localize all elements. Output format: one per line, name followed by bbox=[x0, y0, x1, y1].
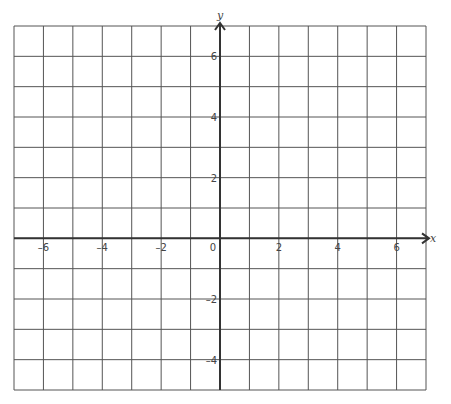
x-tick-label: 2 bbox=[276, 242, 282, 253]
y-tick-label: 4 bbox=[211, 112, 217, 123]
x-tick-label: –6 bbox=[38, 242, 49, 253]
y-tick-label: –4 bbox=[206, 355, 217, 366]
x-axis-label: x bbox=[430, 232, 437, 245]
y-tick-label: 6 bbox=[211, 51, 217, 62]
x-tick-label: 6 bbox=[393, 242, 399, 253]
x-tick-label: –4 bbox=[97, 242, 108, 253]
x-tick-label: 4 bbox=[335, 242, 341, 253]
y-tick-label: –2 bbox=[206, 294, 217, 305]
tick-labels: xy–6–4–20246642–2–4 bbox=[38, 9, 437, 366]
x-tick-label: –2 bbox=[155, 242, 166, 253]
x-tick-label: 0 bbox=[210, 242, 216, 253]
y-axis-label: y bbox=[216, 9, 224, 22]
y-tick-label: 2 bbox=[211, 173, 217, 184]
coordinate-plane: xy–6–4–20246642–2–4 bbox=[0, 0, 451, 404]
